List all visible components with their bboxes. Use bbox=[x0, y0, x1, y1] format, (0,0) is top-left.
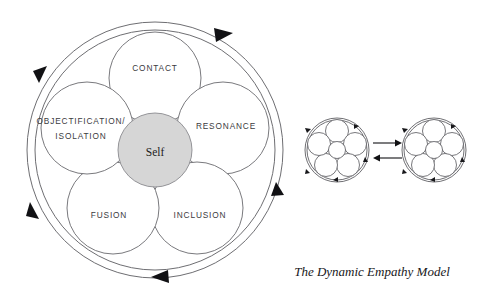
main-wheel: CONTACT RESONANCE INCLUSION FUSION OBJEC… bbox=[26, 22, 284, 283]
ring-arrow-upper-left bbox=[33, 66, 47, 83]
petal-label-objectification: OBJECTIFICATION/ bbox=[36, 116, 125, 126]
mini-right-petal-right bbox=[441, 133, 464, 156]
mini-wheel-right[interactable] bbox=[402, 118, 466, 182]
figure-root: CONTACT RESONANCE INCLUSION FUSION OBJEC… bbox=[0, 0, 482, 308]
petal-label-isolation: ISOLATION bbox=[55, 131, 106, 141]
mini-right-center-circle bbox=[426, 142, 443, 159]
petal-label-contact: CONTACT bbox=[132, 63, 177, 73]
figure-caption: The Dynamic Empathy Model bbox=[294, 264, 450, 279]
ring-arrow-lower-left bbox=[26, 202, 39, 219]
petal-label-resonance: RESONANCE bbox=[196, 121, 256, 131]
mini-left-petal-left bbox=[308, 133, 331, 156]
petal-label-fusion: FUSION bbox=[91, 210, 127, 220]
ring-arrow-bottom bbox=[151, 270, 169, 283]
mini-wheel-left[interactable] bbox=[305, 118, 369, 182]
exchange-connectors bbox=[373, 140, 402, 162]
mini-left-arrow-bottom-left bbox=[305, 169, 310, 174]
mini-right-arrow-bottom-left bbox=[402, 169, 407, 174]
dynamic-empathy-model-figure: CONTACT RESONANCE INCLUSION FUSION OBJEC… bbox=[0, 0, 482, 308]
ring-arrow-right bbox=[271, 182, 284, 196]
ring-arrow-top-right bbox=[214, 28, 233, 42]
mini-left-petal-right bbox=[344, 133, 367, 156]
connector-arrowhead-right bbox=[395, 140, 402, 147]
petal-label-inclusion: INCLUSION bbox=[174, 210, 227, 220]
self-label: Self bbox=[146, 146, 165, 158]
mini-right-petal-left bbox=[405, 133, 428, 156]
connector-arrowhead-left bbox=[373, 155, 380, 162]
mini-left-center-circle bbox=[329, 142, 346, 159]
